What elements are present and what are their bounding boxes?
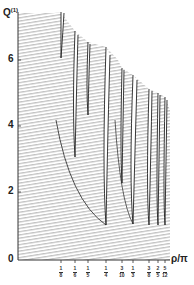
numerator: 1 (60, 266, 63, 271)
numerator: 3 (120, 266, 123, 271)
denominator: 5 (87, 273, 90, 278)
numerator: 5 (163, 266, 166, 271)
y-tick-label-4: 4 (8, 119, 14, 130)
y-tick-label-6: 6 (8, 53, 14, 64)
plot-canvas (0, 0, 194, 285)
x-tick-label-5-12: 512 (162, 266, 168, 278)
y-axis-label-text: Q (3, 7, 11, 18)
y-tick-label-0: 0 (8, 253, 14, 264)
numerator: 2 (157, 266, 160, 271)
y-axis-label-superscript: (1) (11, 7, 18, 13)
x-tick-label-1-5: 15 (86, 266, 90, 278)
x-tick-label-2-5: 25 (156, 266, 160, 278)
denominator: 3 (132, 273, 135, 278)
numerator: 1 (132, 266, 135, 271)
numerator: 1 (105, 266, 108, 271)
y-tick-label-2: 2 (8, 185, 14, 196)
x-tick-label-1-4: 14 (104, 266, 108, 278)
numerator: 3 (148, 266, 151, 271)
x-tick-label-3-10: 310 (119, 266, 125, 278)
denominator: 10 (119, 273, 125, 278)
y-axis-label: Q(1) (3, 7, 18, 18)
x-tick-label-1-6: 16 (73, 266, 77, 278)
numerator: 1 (87, 266, 90, 271)
denominator: 8 (148, 273, 151, 278)
denominator: 12 (162, 273, 168, 278)
denominator: 4 (105, 273, 108, 278)
x-tick-label-1-8: 18 (59, 266, 63, 278)
denominator: 5 (157, 273, 160, 278)
numerator: 1 (74, 266, 77, 271)
x-tick-label-3-8: 38 (147, 266, 151, 278)
denominator: 6 (74, 273, 77, 278)
denominator: 8 (60, 273, 63, 278)
x-axis-label: ρ/π (171, 253, 188, 264)
x-tick-label-1-3: 13 (131, 266, 135, 278)
